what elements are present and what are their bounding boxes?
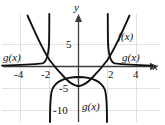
- tick-x-neg4: -4: [14, 69, 23, 80]
- y-axis-arrow: [75, 14, 82, 22]
- label-g-of-x-bottom: g(x): [82, 101, 100, 112]
- axis-label-x: x: [153, 61, 158, 72]
- tick-x-4: 4: [133, 69, 139, 80]
- tick-x-neg2: -2: [41, 69, 50, 80]
- tick-y-neg5: -5: [59, 83, 68, 94]
- label-g-of-x-right: g(x): [122, 52, 140, 63]
- graph-figure: f(x) g(x) g(x) g(x) x y -4 -2 2 4 5 -5 -…: [0, 0, 165, 125]
- tick-y-5: 5: [66, 39, 72, 50]
- label-g-of-x-left: g(x): [3, 52, 21, 63]
- tick-y-neg10: -10: [53, 105, 68, 116]
- tick-x-2: 2: [108, 69, 114, 80]
- axis-label-y: y: [74, 2, 79, 13]
- label-f-of-x: f(x): [118, 31, 133, 42]
- f-left-arm: [28, 16, 79, 87]
